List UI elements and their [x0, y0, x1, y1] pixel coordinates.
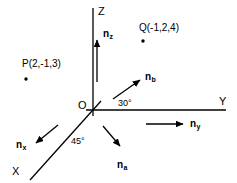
y-axis-label: Y — [219, 96, 226, 107]
vector-nb-arrow — [113, 80, 140, 99]
vector-ny-label: ny — [190, 119, 200, 129]
x-axis-line — [30, 101, 101, 180]
vector-nb-base: n — [145, 71, 151, 82]
angle-45-label: 45° — [71, 137, 85, 146]
vector-nz-subscript: z — [110, 33, 114, 40]
vector-nx-arrow — [36, 125, 58, 143]
coordinate-system-diagram: Z Y X O P(2,-1,3) Q(-1,2,4) 30° 45° nz n… — [0, 0, 237, 183]
vector-nz-base: n — [103, 28, 109, 39]
vector-ny-base: n — [190, 118, 196, 129]
point-p-label: P(2,-1,3) — [22, 59, 61, 69]
vector-nb-subscript: b — [152, 76, 156, 83]
vector-nx-label: nx — [16, 140, 26, 150]
x-axis-label: X — [12, 166, 19, 177]
vector-na-base: n — [117, 159, 123, 170]
vector-nx-base: n — [16, 139, 22, 150]
point-q-dot — [141, 39, 144, 42]
origin-label: O — [78, 100, 87, 111]
diagram-canvas — [0, 0, 237, 183]
point-q-label: Q(-1,2,4) — [139, 23, 179, 33]
angle-30-label: 30° — [118, 99, 132, 108]
vector-ny-subscript: y — [197, 123, 201, 130]
vector-na-subscript: a — [124, 164, 128, 171]
z-axis-label: Z — [98, 6, 105, 17]
vector-na-label: na — [117, 160, 127, 170]
vector-nx-subscript: x — [23, 144, 27, 151]
vector-nz-label: nz — [103, 29, 113, 39]
vector-nb-label: nb — [145, 72, 155, 82]
point-p-dot — [24, 77, 27, 80]
vector-na-arrow — [103, 126, 120, 146]
